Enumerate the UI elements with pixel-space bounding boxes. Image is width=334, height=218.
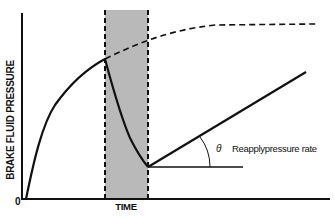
y-axis-label: BRAKE FLUID PRESSURE [5, 60, 16, 180]
reapply-rate-label: Reapplypressure rate [232, 143, 317, 154]
theta-symbol: θ [216, 143, 221, 154]
theta-angle-arc [200, 137, 210, 167]
release-interval-band [105, 10, 148, 199]
brake-pressure-diagram: BRAKE FLUID PRESSURE TIME 0 θ Reapplypre… [0, 0, 334, 218]
pressure-buildup-curve [26, 59, 105, 199]
origin-label: 0 [15, 196, 21, 207]
x-axis-label: TIME [115, 201, 137, 212]
diagram-canvas [0, 0, 334, 218]
